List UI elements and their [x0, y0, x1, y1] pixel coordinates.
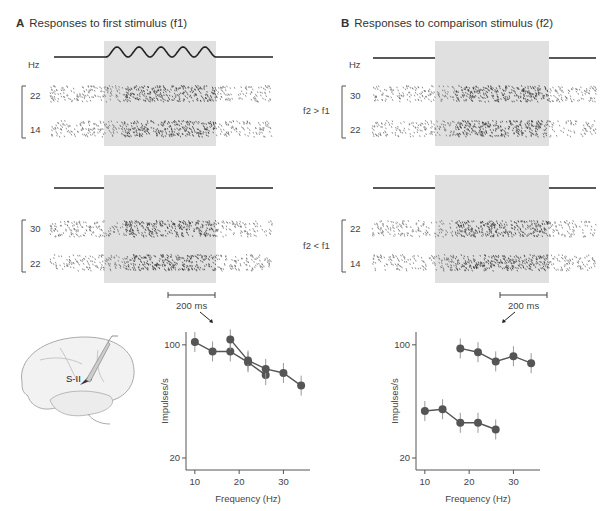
svg-text:20: 20	[399, 452, 410, 463]
svg-text:100: 100	[164, 339, 180, 350]
condition-label: f2 > f1	[303, 105, 330, 116]
raster-label: 22	[350, 223, 361, 234]
svg-text:Frequency (Hz): Frequency (Hz)	[445, 493, 510, 504]
svg-text:Impulses/s: Impulses/s	[389, 378, 400, 424]
svg-text:Impulses/s: Impulses/s	[159, 378, 170, 424]
svg-text:30: 30	[508, 476, 519, 487]
raster-label: 30	[350, 90, 361, 101]
raster-label: 14	[350, 258, 361, 269]
svg-text:20: 20	[234, 476, 245, 487]
condition-label: f2 < f1	[303, 240, 330, 251]
s2-region-label: S-II	[66, 373, 81, 384]
scale-bar-label: 200 ms	[508, 300, 539, 311]
svg-text:10: 10	[420, 476, 431, 487]
raster-label: 22	[30, 258, 41, 269]
chart-b: 10203020100Frequency (Hz)Impulses/s	[380, 320, 550, 511]
svg-text:10: 10	[190, 476, 201, 487]
raster-label: 22	[30, 90, 41, 101]
svg-text:100: 100	[394, 339, 410, 350]
raster-label: 14	[30, 124, 41, 135]
svg-text:30: 30	[278, 476, 289, 487]
chart-a: 10203020100Frequency (Hz)Impulses/s	[150, 320, 320, 511]
raster-label: 22	[350, 124, 361, 135]
svg-text:20: 20	[464, 476, 475, 487]
svg-text:20: 20	[169, 452, 180, 463]
svg-text:Frequency (Hz): Frequency (Hz)	[215, 493, 280, 504]
raster-label: 30	[30, 223, 41, 234]
scale-bar-label: 200 ms	[176, 300, 207, 311]
